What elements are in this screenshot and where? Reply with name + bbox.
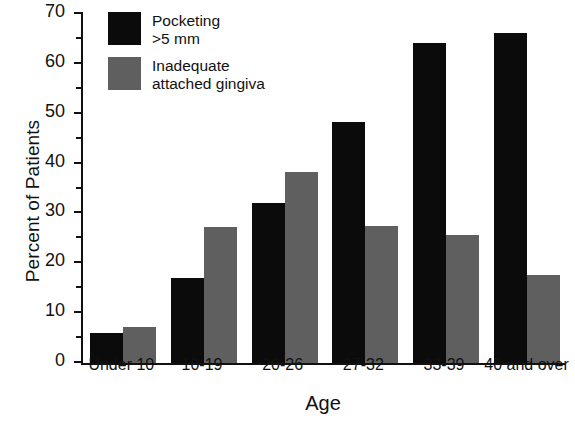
y-tick-label: 70 (45, 2, 65, 20)
y-tick-label: 10 (45, 301, 65, 319)
y-tick-major: 40 (74, 162, 83, 164)
y-tick-minor (76, 87, 82, 89)
legend-label-line: >5 mm (152, 30, 220, 48)
y-tick-major: 70 (74, 12, 83, 14)
legend-label: Pocketing>5 mm (152, 12, 220, 49)
bar (446, 235, 479, 363)
y-tick-label: 40 (45, 152, 65, 170)
x-tick-label: 33-39 (404, 356, 485, 374)
bar (204, 227, 237, 363)
x-tick-label: Under 10 (81, 356, 162, 374)
y-tick-label: 30 (45, 202, 65, 220)
bar-group (413, 14, 479, 363)
bar-chart: Percent of Patients 010203040506070 Unde… (0, 0, 575, 428)
x-tick-label: 27-32 (323, 356, 404, 374)
x-tick-label: 40 and over (484, 356, 565, 374)
legend-label-line: Pocketing (152, 12, 220, 30)
y-tick-major: 50 (74, 112, 83, 114)
bar (494, 33, 527, 363)
legend-label: Inadequateattached gingiva (152, 57, 265, 94)
y-tick-major: 30 (74, 211, 83, 213)
bar (332, 122, 365, 363)
y-tick-major: 10 (74, 311, 83, 313)
y-tick-label: 50 (45, 102, 65, 120)
y-tick-minor (76, 187, 82, 189)
legend-label-line: attached gingiva (152, 75, 265, 93)
y-tick-minor (76, 236, 82, 238)
legend-swatch (108, 12, 141, 45)
bar (527, 275, 560, 363)
x-tick-label: 20-26 (242, 356, 323, 374)
legend-entry: Pocketing>5 mm (108, 12, 338, 49)
y-tick-label: 20 (45, 251, 65, 269)
bar (252, 203, 285, 363)
y-tick-minor (76, 286, 82, 288)
legend-entry: Inadequateattached gingiva (108, 57, 338, 94)
bar-group (494, 14, 560, 363)
legend-label-line: Inadequate (152, 57, 265, 75)
y-tick-label: 0 (55, 351, 65, 369)
bar (171, 278, 204, 363)
y-tick-label: 60 (45, 52, 65, 70)
legend-swatch (108, 57, 141, 90)
bar (365, 226, 398, 363)
bar (413, 43, 446, 363)
y-tick-minor (76, 137, 82, 139)
y-axis-title: Percent of Patients (22, 51, 44, 351)
y-tick-major: 60 (74, 62, 83, 64)
x-axis-title: Age (81, 392, 565, 415)
bar (285, 172, 318, 363)
x-tick-label: 10-19 (162, 356, 243, 374)
chart-legend: Pocketing>5 mmInadequateattached gingiva (108, 12, 338, 101)
y-tick-minor (76, 336, 82, 338)
y-tick-minor (76, 37, 82, 39)
bar-group (332, 14, 398, 363)
y-tick-major: 20 (74, 261, 83, 263)
